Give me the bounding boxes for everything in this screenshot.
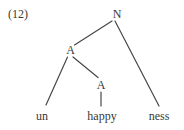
edge-root-to-ness [115,21,159,106]
leaf-un: un [36,109,48,123]
tree-edges [46,21,159,106]
example-number-label: (12) [8,7,28,21]
node-root-n: N [113,7,122,21]
tree-labels: (12) N A A un happy ness [8,7,170,123]
syntax-tree-figure: (12) N A A un happy ness [0,0,184,130]
node-lower-a: A [97,78,106,92]
node-upper-a: A [66,43,75,57]
tree-svg: (12) N A A un happy ness [0,0,184,130]
leaf-happy: happy [87,109,116,123]
edge-root-to-upper-a [75,21,113,45]
edge-upper-a-to-un [46,57,68,105]
leaf-ness: ness [149,109,170,123]
edge-upper-a-to-lower-a [73,57,98,78]
